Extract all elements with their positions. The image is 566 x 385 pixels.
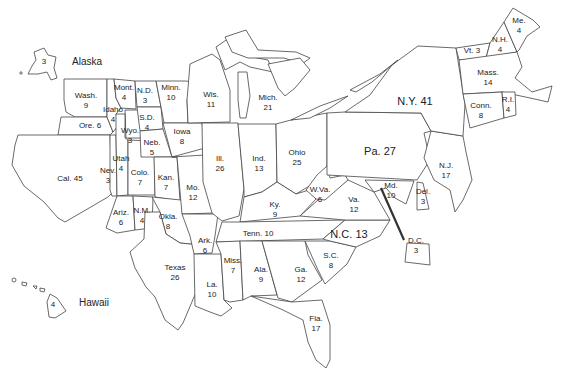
state-label: Wis. 11 (203, 90, 219, 110)
state-label: Miss. 7 (224, 256, 243, 276)
state-label: W.Va. 6 (310, 185, 331, 205)
lake-michigan (238, 72, 250, 118)
state-label: Idaho 4 (103, 105, 123, 125)
state-label: Ga. 12 (295, 265, 308, 285)
state-label: N.Y. 41 (397, 95, 432, 107)
state-value: 4 (51, 300, 55, 310)
state-label: Ill. 26 (216, 154, 225, 174)
state-label: Mass. 14 (477, 68, 498, 88)
state-label: R.I. 4 (502, 95, 514, 115)
state-label: Ind. 13 (252, 154, 265, 174)
state-label: La. 10 (206, 280, 217, 300)
state-label: N.C. 13 (330, 228, 367, 240)
electoral-votes-map: 3Alaska4HawaiiWash. 9Ore. 6Cal. 45Idaho … (0, 0, 566, 385)
state-label: Ore. 6 (79, 121, 101, 131)
state-label: N.J. 17 (439, 161, 453, 181)
state-label: S.C. 8 (323, 251, 339, 271)
state-label: Neb. 5 (144, 138, 161, 158)
state-label: Wyo. 3 (121, 126, 139, 146)
state-label: Iowa 8 (174, 127, 191, 147)
state-label: Vt. 3 (464, 46, 480, 56)
state-name: Alaska (72, 57, 102, 67)
state-label: Ky. 9 (270, 200, 281, 220)
state-value: 3 (42, 57, 46, 67)
state-label: Mont. 4 (114, 83, 134, 103)
state-label: Ohio 25 (289, 148, 306, 168)
state-label: Pa. 27 (364, 145, 396, 157)
state-label: Conn. 8 (470, 101, 491, 121)
state-label: Ark. 6 (198, 236, 212, 256)
state-label: Me. 4 (512, 16, 525, 36)
state-label: Colo. 7 (131, 168, 150, 188)
state-label: Fla. 17 (309, 314, 322, 334)
state-label: Ariz. 6 (113, 208, 129, 228)
state-label: Mich. 21 (258, 93, 277, 113)
state-label: Okla. 8 (159, 212, 178, 232)
state-label: Ala. 9 (254, 265, 268, 285)
state-label: Wash. 9 (75, 91, 97, 111)
state-label: Kan. 7 (158, 173, 174, 193)
state-label: Utah 4 (113, 154, 130, 174)
state-label: N.H. 4 (492, 35, 508, 55)
state-label: S.D. 4 (139, 113, 155, 133)
state-label: Va. 12 (348, 195, 359, 215)
state-label: Minn. 10 (161, 83, 181, 103)
state-name: Hawaii (79, 298, 109, 308)
state-label: D.C. 3 (408, 236, 424, 256)
state-label: Md. 10 (384, 181, 397, 201)
state-label: Del. 3 (416, 187, 430, 207)
state-label: N.M. 4 (134, 206, 151, 226)
state-label: Mo. 12 (186, 183, 199, 203)
state-label: Texas 26 (165, 263, 186, 283)
state-label: Cal. 45 (57, 174, 82, 184)
lake-huron (268, 58, 310, 96)
state-label: Tenn. 10 (243, 229, 274, 239)
state-label: N.D. 3 (137, 86, 153, 106)
